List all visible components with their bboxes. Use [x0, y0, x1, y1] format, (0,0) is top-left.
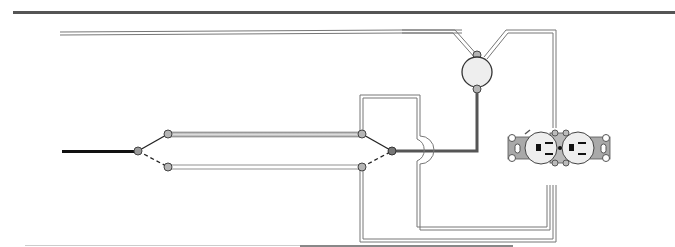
terminal-screw [552, 160, 558, 166]
plug-slot [578, 142, 586, 144]
switch2-common-terminal [388, 147, 396, 155]
plug-slot [545, 153, 553, 155]
terminal-screw [552, 130, 558, 136]
ground-slot [569, 144, 574, 151]
switch2-traveler-terminal-a [358, 130, 366, 138]
ground-slot [536, 144, 541, 151]
ground-screw [525, 130, 530, 134]
strap-screw-hole [509, 155, 516, 162]
power-feed-wire [62, 150, 138, 153]
strap-screw-hole [509, 135, 516, 142]
three-way-switch-2 [358, 130, 396, 171]
strap-slot [601, 144, 606, 153]
light-fixture [462, 51, 492, 93]
terminal-screw [563, 130, 569, 136]
switch2-traveler-terminal-b [358, 163, 366, 171]
center-screw [558, 146, 562, 150]
traveler-lower [170, 165, 362, 169]
terminal-screw [563, 160, 569, 166]
switched-hot-wire [392, 93, 477, 151]
duplex-receptacle [508, 130, 610, 166]
switch1-traveler-terminal-b [164, 163, 172, 171]
strap-screw-hole [603, 135, 610, 142]
switch-box-loop-cable [360, 95, 556, 242]
switch1-traveler-terminal-a [164, 130, 172, 138]
strap-screw-hole [603, 155, 610, 162]
traveler-upper [170, 132, 362, 137]
outlet-face-right [562, 132, 594, 164]
light-fixture-icon [462, 57, 492, 87]
switch1-common-terminal [134, 147, 142, 155]
strap-slot [515, 144, 520, 153]
wiring-diagram [0, 0, 675, 247]
three-way-switch-1 [134, 130, 172, 171]
plug-slot [545, 142, 553, 144]
neutral-cable-top [60, 30, 462, 35]
plug-slot [578, 153, 586, 155]
fixture-bottom-terminal [473, 85, 481, 93]
top-border-rule [13, 11, 675, 14]
